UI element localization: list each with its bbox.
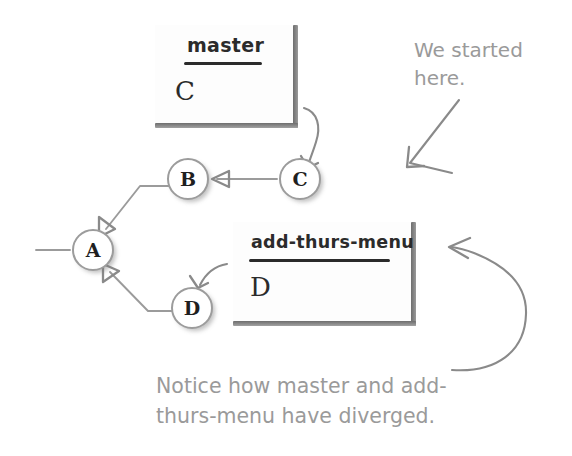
commit-node-a[interactable]: A (72, 229, 114, 271)
edge-d-to-a (110, 272, 176, 311)
commit-node-c[interactable]: C (279, 158, 321, 200)
edge-b-to-a (106, 186, 169, 229)
diagram-canvas: master C add-thurs-menu D A (0, 0, 572, 456)
commit-node-d[interactable]: D (171, 287, 213, 329)
commit-node-c-label: C (292, 170, 307, 189)
callout-arrow-diverged (452, 247, 526, 370)
commit-node-b-label: B (180, 170, 196, 189)
pointer-add-thurs-menu-to-d (200, 264, 227, 285)
pointer-master-to-c (304, 108, 318, 166)
caption-branches-diverged: Notice how master and add- thurs-menu ha… (156, 372, 447, 431)
commit-node-a-label: A (86, 241, 101, 260)
annotation-we-started-here: We started here. (414, 36, 523, 93)
commit-node-b[interactable]: B (167, 158, 209, 200)
callout-arrow-started-here (410, 100, 459, 173)
commit-node-d-label: D (184, 299, 200, 318)
